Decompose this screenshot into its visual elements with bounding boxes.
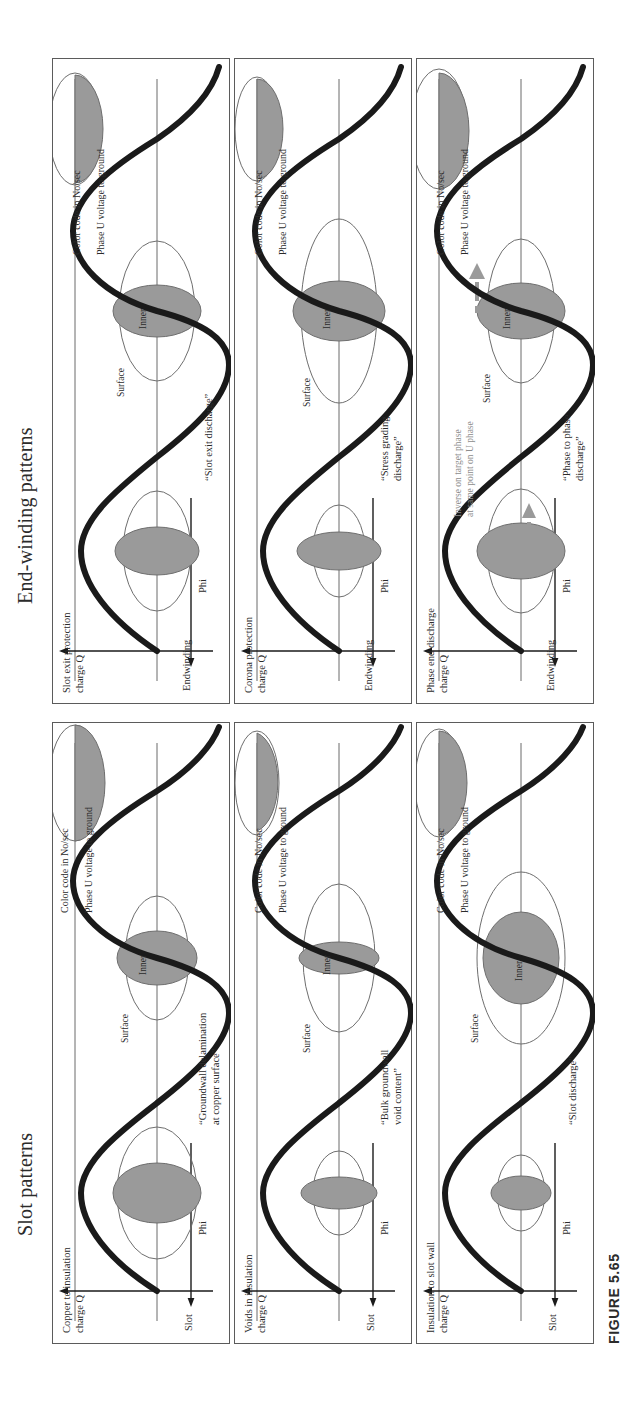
panel-slot-2-cloud-inner: Inner <box>321 955 334 975</box>
panel-slot-2-axis-label: Slot <box>365 1314 378 1331</box>
panel-slot-3-cloud-inner: Inner <box>513 961 526 981</box>
panel-end-3-cloud-surface: Surface <box>481 374 494 403</box>
panel-slot-2: Voids in insulation charge Q Slot Phi “B… <box>234 722 412 1344</box>
panel-end-3: Phase end discharge charge Q Endwinding … <box>416 58 594 704</box>
panel-slot-2-legend: Color code in No/sec Phase U voltage to … <box>241 723 289 913</box>
panel-slot-3-phase-label: Phi <box>561 1221 574 1235</box>
panel-slot-2-legend-line2: Phase U voltage to ground <box>277 807 288 913</box>
panel-end-1-title: Slot exit protection charge Q <box>61 543 86 693</box>
panel-slot-2-quote: “Bulk groundwall void content” <box>379 895 404 1125</box>
column-title-slot-patterns: Slot patterns <box>14 1133 37 1236</box>
panel-end-3-legend: Color code in No/sec Phase U voltage to … <box>423 59 471 255</box>
panel-end-1-quote: “Slot exit discharge” <box>203 241 216 481</box>
panel-slot-2-title: Voids in insulation charge Q <box>243 1183 268 1333</box>
panel-slot-1-axis-label: Slot <box>183 1314 196 1331</box>
panel-end-3-quote: “Phase to phase discharge” <box>561 241 586 481</box>
panel-end-2-legend-line2: Phase U voltage to ground <box>277 149 288 255</box>
panel-end-2-legend-line1: Color code in No/sec <box>253 170 264 255</box>
panel-end-2-legend: Color code in No/sec Phase U voltage to … <box>241 59 289 255</box>
panel-end-2-axis-label: Endwinding <box>363 640 376 691</box>
panel-slot-2-legend-line1: Color code in No/sec <box>253 828 264 913</box>
panel-end-2-quote: “Stress grading discharge” <box>379 241 404 481</box>
panel-end-1-legend-line1: Color code in No/sec <box>71 170 82 255</box>
panel-end-3-legend-line2: Phase U voltage to ground <box>459 149 470 255</box>
panel-slot-1: Copper to insulation charge Q Slot Phi “… <box>52 722 230 1344</box>
panel-end-1-cloud-inner: Inner <box>137 309 150 329</box>
panel-slot-3-legend-line1: Color code in No/sec <box>435 828 446 913</box>
panel-slot-3-axis-label: Slot <box>547 1314 560 1331</box>
panel-end-3-legend-line1: Color code in No/sec <box>435 170 446 255</box>
panel-slot-2-cloud-surface: Surface <box>301 1024 314 1053</box>
figure-caption: FIGURE 5.65 <box>606 1253 622 1344</box>
panel-slot-1-quote: “Groundwall delamination at copper surfa… <box>197 895 222 1125</box>
panel-slot-1-cloud-inner: Inner <box>137 955 150 975</box>
panel-end-2-title: Corona protection charge Q <box>243 543 268 693</box>
panel-end-3-title: Phase end discharge charge Q <box>425 543 450 693</box>
panel-end-3-phase-label: Phi <box>561 579 574 593</box>
panel-end-3-annotation: Inverse on target phase at same point on… <box>453 297 476 517</box>
figure-page: Slot patterns End-winding patterns <box>0 0 636 1404</box>
panel-slot-3-cloud-surface: Surface <box>469 1014 482 1043</box>
panel-slot-2-phase-label: Phi <box>379 1221 392 1235</box>
panel-slot-3-legend: Color code in No/sec Phase U voltage to … <box>423 723 471 913</box>
panel-end-1-axis-label: Endwinding <box>181 640 194 691</box>
panel-slot-1-legend-line2: Phase U voltage to ground <box>83 807 94 913</box>
panel-end-1-cloud-surface: Surface <box>115 368 128 397</box>
panel-end-2: Corona protection charge Q Endwinding Ph… <box>234 58 412 704</box>
panel-slot-1-legend: Color code in No/sec Phase U voltage to … <box>59 723 95 913</box>
panel-slot-1-legend-line1: Color code in No/sec <box>59 828 70 913</box>
panel-end-1-phase-label: Phi <box>197 579 210 593</box>
panel-slot-1-phase-label: Phi <box>197 1221 210 1235</box>
panel-end-1: Slot exit protection charge Q Endwinding… <box>52 58 230 704</box>
panel-end-1-legend-line2: Phase U voltage to ground <box>95 149 106 255</box>
panel-slot-3: Insulation to slot wall charge Q Slot Ph… <box>416 722 594 1344</box>
panel-end-2-cloud-inner: Inner <box>321 309 334 329</box>
panel-end-3-cloud-inner: Inner <box>501 309 514 329</box>
panel-slot-1-cloud-surface: Surface <box>119 1014 132 1043</box>
panel-end-2-phase-label: Phi <box>379 579 392 593</box>
panel-slot-3-legend-line2: Phase U voltage to ground <box>459 807 470 913</box>
panel-slot-3-quote: “Slot discharge” <box>567 895 580 1125</box>
column-title-end-winding-patterns: End-winding patterns <box>14 427 37 604</box>
panel-slot-3-title: Insulation to slot wall charge Q <box>425 1173 450 1333</box>
panel-end-1-legend: Color code in No/sec Phase U voltage to … <box>59 59 107 255</box>
panel-end-3-axis-label: Endwinding <box>545 640 558 691</box>
panel-slot-1-title: Copper to insulation charge Q <box>61 1183 86 1333</box>
panel-end-2-cloud-surface: Surface <box>301 378 314 407</box>
